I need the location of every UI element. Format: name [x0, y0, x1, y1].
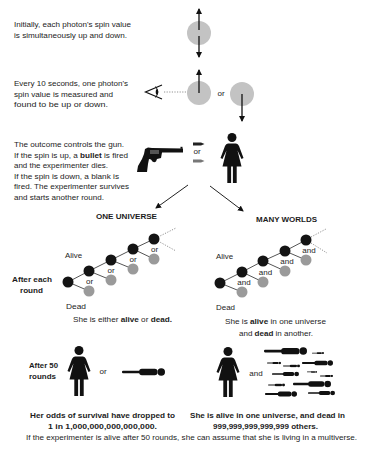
dead-node [258, 277, 269, 288]
many-worlds-outcome: and She is alive in one universe, and de… [190, 347, 345, 431]
summary-pre: She is either [73, 315, 121, 324]
one-universe-tree: or or or or Alive Dead She is either ali… [63, 228, 177, 324]
dead-bodies-cluster-icon [264, 347, 335, 396]
alive-node [149, 234, 160, 245]
alive-woman-icon [68, 346, 91, 396]
one-universe-title: ONE UNIVERSE [96, 212, 158, 221]
many-worlds-alive-label: Alive [216, 252, 234, 261]
measure-or-label: or [217, 89, 224, 98]
photon-spin-down-icon [230, 82, 254, 121]
step-initial: Initially, each photon's spin value is s… [14, 9, 211, 57]
one-universe-alive-label: Alive [65, 251, 83, 260]
one-universe-odds-line-1: Her odds of survival have dropped to [30, 411, 175, 420]
measure-text-line-2: spin value is measured and [14, 90, 113, 99]
gun-or-label: or [193, 147, 200, 156]
bullet-icon [193, 143, 205, 146]
eye-icon [146, 85, 163, 99]
tree-edges [68, 228, 176, 291]
photon-superposition-icon [187, 9, 211, 57]
many-worlds-tree: and and and and Alive Dead She is alive … [215, 229, 328, 338]
many-worlds-summary-line-1: She is alive in one universe [225, 317, 327, 326]
quantum-suicide-diagram: Initially, each photon's spin value is s… [0, 0, 365, 454]
many-worlds-title: MANY WORLDS [256, 215, 318, 224]
alive-node [301, 235, 312, 246]
gun-text-line-2: If the spin is up, a bullet is fired [14, 151, 128, 160]
many-worlds-dead-label: Dead [216, 303, 235, 312]
many-worlds-outcome-line-1: She is alive in one universe, and dead i… [190, 411, 345, 420]
gun-text-line-4: If the spin is down, a blank is [14, 172, 119, 181]
alive-node [106, 255, 117, 266]
alive-node [280, 246, 291, 257]
summary-alive-emphasis: alive [250, 317, 269, 326]
outcome-and-label: and [249, 369, 262, 378]
blank-cartridge-icon [193, 160, 205, 163]
summary-pre: She is [225, 317, 250, 326]
step-gun: The outcome controls the gun. If the spi… [14, 133, 244, 211]
one-universe-odds-line-2: 1 in 1,000,000,000,000,000. [48, 422, 157, 431]
dead-body-icon [122, 368, 165, 376]
dead-node [149, 254, 160, 265]
summary-pre: and [239, 329, 255, 338]
tree-connector-label: or [107, 266, 114, 275]
gun-text-line-6: and starts another round. [14, 193, 104, 202]
summary-dead-emphasis: dead [255, 329, 274, 338]
gun-text-line-1: The outcome controls the gun. [14, 140, 124, 149]
many-worlds-summary-line-2: and dead in another. [239, 329, 313, 338]
tree-connector-label: or [151, 245, 158, 254]
tree-connector-label: and [259, 268, 272, 277]
gun-text-line-2-post: is fired [102, 151, 128, 160]
tree-connector-label: and [280, 257, 293, 266]
one-universe-dead-label: Dead [66, 302, 86, 311]
summary-alive-emphasis: alive [121, 315, 140, 324]
step-measure: Every 10 seconds, one photon's spin valu… [14, 70, 254, 121]
summary-dead-emphasis: dead. [151, 315, 172, 324]
initial-text-line-1: Initially, each photon's spin value [14, 20, 132, 29]
measure-text-line-1: Every 10 seconds, one photon's [14, 79, 128, 88]
dead-node [301, 255, 312, 266]
bullet-emphasis: bullet [80, 151, 102, 160]
alive-node [84, 266, 95, 277]
alive-node [63, 277, 74, 288]
dead-node [280, 266, 291, 277]
photon-spin-up-icon [187, 70, 211, 105]
arrow-to-one-universe [156, 185, 188, 208]
initial-text-line-2: is simultaneously up and down. [14, 31, 127, 40]
gun-text-line-5: fired. The experimenter survives [14, 182, 129, 191]
row-label-after-each-line-1: After each [12, 275, 52, 284]
dead-node [237, 287, 248, 298]
summary-post: in one universe [268, 317, 326, 326]
summary-post: in another. [273, 329, 313, 338]
tree-connector-label: or [86, 277, 93, 286]
revolver-icon [137, 147, 183, 172]
row-label-after-each-line-2: round [20, 286, 43, 295]
tree-connector-label: or [129, 255, 136, 264]
gun-text-line-3: and the experimenter dies. [14, 161, 108, 170]
tree-connector-label: and [237, 278, 250, 287]
alive-node [215, 278, 226, 289]
gun-text-line-2-pre: If the spin is up, a [14, 151, 80, 160]
summary-mid: or [139, 315, 151, 324]
experimenter-woman-icon [221, 133, 244, 183]
dead-node [128, 264, 139, 275]
row-label-after-50-line-2: rounds [29, 372, 57, 381]
tree-connector-label: and [302, 246, 315, 255]
arrow-to-many-worlds [210, 186, 243, 211]
measure-text-line-3: found to be up or down. [14, 100, 108, 109]
alive-node [258, 256, 269, 267]
many-worlds-outcome-line-2: 999,999,999,999,999 others. [213, 422, 318, 431]
dead-node [84, 286, 95, 297]
one-universe-summary: She is either alive or dead. [73, 315, 172, 324]
alive-node [128, 244, 139, 255]
outcome-or-label: or [99, 367, 106, 376]
one-universe-outcome: or Her odds of survival have dropped to … [30, 346, 175, 431]
alive-node [237, 267, 248, 278]
alive-woman-icon [217, 347, 240, 397]
conclusion-text: If the experimenter is alive after 50 ro… [26, 433, 357, 442]
dead-node [106, 275, 117, 286]
row-label-after-50-line-1: After 50 [29, 361, 59, 370]
